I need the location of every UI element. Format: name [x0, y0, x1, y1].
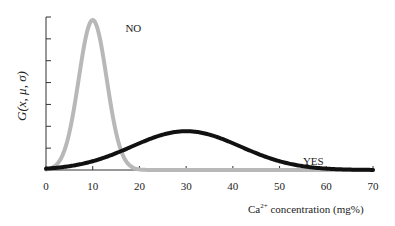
x-tick-label: 50: [274, 180, 286, 192]
y-axis-label: G(x, μ, σ): [14, 71, 29, 121]
x-tick-label: 70: [368, 180, 380, 192]
series-no-curve: [46, 20, 373, 170]
x-tick-label: 0: [43, 180, 49, 192]
axes: 010203040506070: [43, 17, 379, 192]
series-yes-label: YES: [303, 155, 324, 167]
series-no-label: NO: [125, 22, 141, 34]
series-yes-curve: [46, 131, 373, 170]
chart: 010203040506070 NOYES G(x, μ, σ) Ca2+ co…: [0, 0, 395, 226]
labels-group: NOYES: [125, 22, 323, 167]
x-tick-label: 10: [87, 180, 99, 192]
x-tick-label: 40: [227, 180, 239, 192]
x-tick-label: 30: [181, 180, 193, 192]
x-axis-label: Ca2+ concentration (mg%): [248, 202, 364, 216]
x-tick-label: 60: [321, 180, 333, 192]
series-group: [46, 20, 373, 170]
x-tick-label: 20: [134, 180, 146, 192]
